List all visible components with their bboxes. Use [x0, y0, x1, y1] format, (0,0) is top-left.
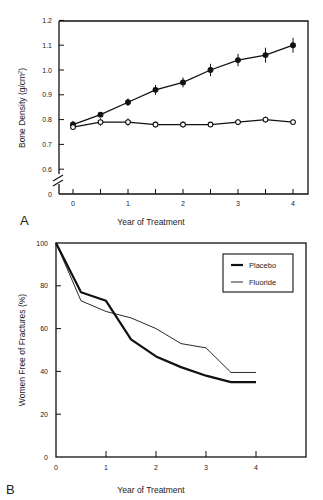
- x-tick-label: 0: [54, 464, 58, 471]
- chart-b-x-title: Year of Treatment: [117, 485, 185, 495]
- y-tick-label: 1.0: [42, 67, 52, 74]
- data-point: [236, 120, 241, 125]
- y-tick-label: 40: [40, 368, 48, 375]
- data-point: [98, 120, 103, 125]
- y-tick-label: 80: [40, 282, 48, 289]
- data-point: [263, 117, 268, 122]
- legend-placebo-label: Placebo: [249, 261, 276, 270]
- y-tick-label: 0.6: [42, 166, 52, 173]
- chart-a-y-ticks: 00.60.70.80.91.01.11.2: [42, 17, 64, 198]
- panel-label-b: B: [6, 482, 15, 497]
- y-tick-label: 0.7: [42, 141, 52, 148]
- chart-a-y-title: Bone Density (g/cm2): [17, 68, 27, 148]
- data-point: [126, 100, 131, 105]
- x-tick-label: 1: [126, 200, 130, 207]
- chart-a-series: [71, 38, 296, 130]
- y-tick-label: 1.1: [42, 42, 52, 49]
- data-point: [71, 125, 76, 130]
- data-point: [291, 120, 296, 125]
- x-tick-label: 2: [181, 200, 185, 207]
- y-tick-label: 0: [48, 191, 52, 198]
- chart-a-x-title: Year of Treatment: [117, 217, 185, 227]
- panel-label-a: A: [20, 213, 29, 228]
- data-point: [208, 122, 213, 127]
- data-point: [98, 112, 103, 117]
- data-point: [181, 80, 186, 85]
- data-point: [153, 122, 158, 127]
- x-tick-label: 3: [204, 464, 208, 471]
- x-tick-label: 0: [71, 200, 75, 207]
- y-tick-label: 20: [40, 411, 48, 418]
- chart-a-x-ticks: 01234: [71, 189, 295, 207]
- y-tick-label: 0.8: [42, 116, 52, 123]
- y-tick-label: 100: [36, 240, 48, 247]
- chart-a: 00.60.70.80.91.01.11.2 01234 Year of Tre…: [17, 17, 308, 228]
- y-tick-label: 60: [40, 325, 48, 332]
- legend-fluoride-label: Fluoride: [249, 278, 276, 287]
- y-tick-label: 0: [44, 454, 48, 461]
- data-point: [236, 58, 241, 63]
- data-point: [263, 53, 268, 58]
- x-tick-label: 3: [236, 200, 240, 207]
- x-tick-label: 2: [154, 464, 158, 471]
- data-point: [126, 120, 131, 125]
- x-tick-label: 4: [254, 464, 258, 471]
- chart-b: 020406080100 01234 Placebo Fluoride Year…: [6, 240, 306, 498]
- chart-a-frame: [59, 21, 308, 194]
- data-point: [291, 43, 296, 48]
- data-point: [208, 68, 213, 73]
- chart-b-y-title: Women Free of Fractures (%): [17, 294, 27, 406]
- chart-b-legend: Placebo Fluoride: [223, 254, 293, 292]
- x-tick-label: 1: [104, 464, 108, 471]
- chart-b-y-ticks: 020406080100: [36, 240, 61, 461]
- figure: 00.60.70.80.91.01.11.2 01234 Year of Tre…: [0, 0, 323, 500]
- x-tick-label: 4: [291, 200, 295, 207]
- y-tick-label: 1.2: [42, 17, 52, 24]
- data-point: [153, 87, 158, 92]
- data-point: [181, 122, 186, 127]
- axis-break-icon: [53, 175, 63, 181]
- y-tick-label: 0.9: [42, 91, 52, 98]
- chart-b-x-ticks: 01234: [54, 451, 258, 471]
